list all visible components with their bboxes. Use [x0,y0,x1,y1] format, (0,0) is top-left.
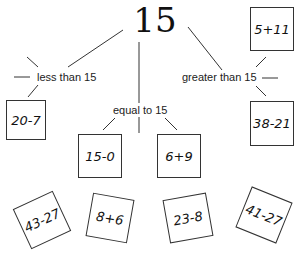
card-unsorted-2[interactable]: 23-8 [163,193,214,244]
stub-equal-1 [103,118,115,130]
stub-less-3 [28,85,38,97]
stub-greater-1 [256,57,266,67]
line-root-to-greater [188,27,222,70]
root-number: 15 [120,0,190,40]
card-equal-0[interactable]: 15-0 [78,134,122,178]
stub-greater-3 [256,86,266,96]
card-unsorted-1[interactable]: 8+6 [85,193,134,244]
label-less-than: less than 15 [37,71,96,84]
label-equal-to: equal to 15 [113,104,167,117]
card-less-0[interactable]: 20-7 [6,100,46,140]
card-greater-0[interactable]: 5+11 [250,7,294,51]
card-greater-1[interactable]: 38-21 [250,101,294,146]
stub-equal-3 [165,118,177,130]
line-root-to-less [68,30,123,67]
card-equal-1[interactable]: 6+9 [157,134,201,178]
stub-less-1 [27,57,38,67]
label-greater-than: greater than 15 [182,71,257,84]
